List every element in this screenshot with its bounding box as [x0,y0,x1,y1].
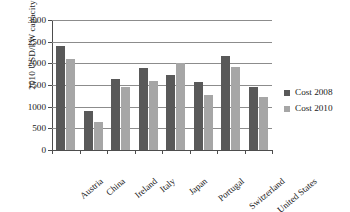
bar [56,46,65,150]
x-axis-label: Ireland [133,176,159,200]
y-axis-label: 3000 [28,15,46,25]
x-axis-label: Italy [158,176,177,194]
y-axis-label: 1000 [28,102,46,112]
x-axis-label: Portugal [216,176,246,203]
legend-label-cost-2008: Cost 2008 [295,88,333,97]
bar-group [245,20,273,150]
x-axis-label: Austria [78,176,105,201]
x-axis-tick [135,150,136,154]
chart-legend: Cost 2008 Cost 2010 [284,88,333,120]
bar-group [52,20,80,150]
plot-area: 300025002000150010005000AustriaChinaIrel… [52,20,272,150]
x-axis-tick [80,150,81,154]
bar [204,95,213,150]
x-axis-tick [272,150,273,154]
x-axis-tick [190,150,191,154]
bar-group [80,20,108,150]
bar [221,56,230,150]
x-axis-tick [162,150,163,154]
legend-label-cost-2010: Cost 2010 [295,104,333,113]
y-axis-label: 1500 [28,80,46,90]
x-axis-tick [52,150,53,154]
y-axis-label: 2500 [28,37,46,47]
y-axis-label: 2000 [28,58,46,68]
bar-group [135,20,163,150]
y-axis-label: 0 [41,145,46,155]
bar [166,75,175,150]
legend-item-cost-2010: Cost 2010 [284,104,333,113]
x-axis-tick [217,150,218,154]
x-axis-label: China [104,176,127,197]
bar [66,59,75,150]
bar-group [190,20,218,150]
x-axis-tick [245,150,246,154]
bar [94,122,103,150]
x-axis-label: Japan [187,176,209,197]
bar [139,68,148,150]
bar [259,97,268,150]
bar [84,111,93,150]
bar-group [107,20,135,150]
bar-group [217,20,245,150]
bar [121,87,130,150]
bar [231,67,240,150]
bar [249,87,258,150]
y-axis-label: 500 [32,123,46,133]
legend-swatch-icon-cost-2010 [284,106,290,112]
legend-item-cost-2008: Cost 2008 [284,88,333,97]
bar-group [162,20,190,150]
bar [176,63,185,150]
x-axis-tick [107,150,108,154]
bar-chart: 2010 USD/kW capacity 3000250020001500100… [0,0,350,212]
legend-swatch-icon-cost-2008 [284,90,290,96]
bar [111,79,120,150]
bar [149,81,158,150]
bar [194,82,203,150]
